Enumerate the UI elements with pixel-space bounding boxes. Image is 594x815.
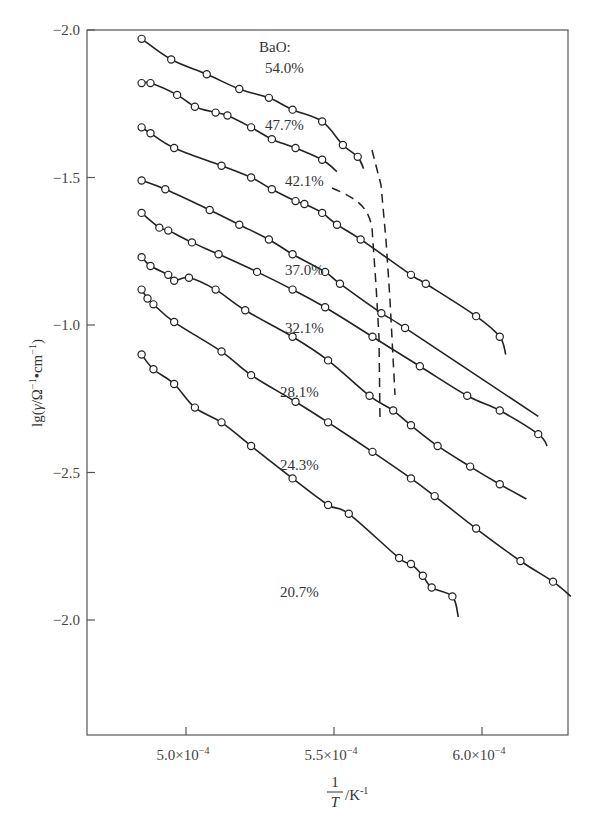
- data-point: [289, 475, 296, 482]
- data-point: [171, 380, 178, 387]
- data-point: [289, 251, 296, 258]
- y-tick-label: −1.0: [53, 317, 80, 333]
- series-curve: [142, 82, 337, 171]
- svg-text:1: 1: [331, 774, 339, 790]
- data-point: [265, 94, 272, 101]
- legend-title: BaO:: [259, 39, 291, 55]
- data-point: [535, 431, 542, 438]
- data-point: [218, 162, 225, 169]
- data-point: [416, 363, 423, 370]
- data-point: [345, 510, 352, 517]
- data-point: [165, 227, 172, 234]
- data-point: [215, 251, 222, 258]
- data-point: [242, 307, 249, 314]
- data-point: [449, 593, 456, 600]
- data-point: [369, 448, 376, 455]
- data-point: [165, 271, 172, 278]
- plot-frame: [87, 30, 568, 735]
- data-point: [218, 419, 225, 426]
- data-point: [147, 262, 154, 269]
- data-point: [191, 103, 198, 110]
- series-label: 32.1%: [285, 320, 324, 336]
- data-point: [185, 274, 192, 281]
- data-point: [289, 286, 296, 293]
- series-curve: [142, 290, 571, 597]
- data-point: [336, 280, 343, 287]
- x-axis-title: 1 T /K-1: [327, 774, 368, 810]
- data-point: [419, 572, 426, 579]
- data-point: [434, 442, 441, 449]
- data-point: [369, 333, 376, 340]
- data-point: [212, 109, 219, 116]
- data-point: [319, 118, 326, 125]
- data-point: [206, 206, 213, 213]
- data-point: [517, 557, 524, 564]
- data-point: [248, 372, 255, 379]
- x-tick-label: 5.5×10−4: [305, 745, 358, 763]
- data-point: [428, 584, 435, 591]
- data-point: [236, 221, 243, 228]
- data-point: [138, 209, 145, 216]
- svg-text:lg(γ/Ω−1•cm−1): lg(γ/Ω−1•cm−1): [27, 339, 46, 427]
- data-point: [150, 366, 157, 373]
- series-label: 54.0%: [265, 60, 304, 76]
- x-tick-label: 5.0×10−4: [157, 745, 210, 763]
- data-point: [218, 348, 225, 355]
- y-axis-title: lg(γ/Ω−1•cm−1): [27, 339, 46, 427]
- data-point: [319, 209, 326, 216]
- data-point: [191, 404, 198, 411]
- data-point: [138, 351, 145, 358]
- data-point: [496, 333, 503, 340]
- data-point: [324, 357, 331, 364]
- y-tick-label: −2.0: [53, 22, 80, 38]
- data-point: [268, 186, 275, 193]
- data-point: [319, 156, 326, 163]
- data-point: [248, 124, 255, 131]
- data-point: [431, 493, 438, 500]
- data-point: [496, 481, 503, 488]
- data-point: [324, 419, 331, 426]
- series-label: 20.7%: [280, 584, 319, 600]
- data-point: [396, 554, 403, 561]
- x-axis-ticks: 5.0×10−45.5×10−46.0×10−4: [157, 727, 506, 763]
- data-point: [171, 144, 178, 151]
- data-point: [357, 236, 364, 243]
- series-label: 28.1%: [280, 384, 319, 400]
- data-point: [150, 301, 157, 308]
- data-point: [401, 324, 408, 331]
- data-point: [354, 153, 361, 160]
- data-point: [171, 277, 178, 284]
- data-points: [138, 35, 557, 600]
- data-point: [292, 144, 299, 151]
- data-point: [366, 392, 373, 399]
- data-point: [144, 295, 151, 302]
- data-point: [138, 35, 145, 42]
- data-point: [292, 198, 299, 205]
- data-point: [224, 112, 231, 119]
- data-point: [422, 280, 429, 287]
- data-point: [138, 286, 145, 293]
- data-point: [253, 268, 260, 275]
- data-point: [472, 525, 479, 532]
- data-point: [407, 475, 414, 482]
- data-point: [147, 130, 154, 137]
- data-point: [339, 141, 346, 148]
- data-point: [390, 407, 397, 414]
- data-point: [138, 124, 145, 131]
- data-point: [203, 71, 210, 78]
- data-point: [407, 422, 414, 429]
- svg-text:/K-1: /K-1: [345, 785, 368, 803]
- curves: [142, 39, 571, 617]
- data-point: [549, 578, 556, 585]
- data-point: [248, 174, 255, 181]
- data-point: [378, 310, 385, 317]
- y-tick-label: −1.5: [53, 170, 80, 186]
- series-label: 42.1%: [285, 173, 324, 189]
- series-label: 37.0%: [285, 262, 324, 278]
- data-point: [168, 56, 175, 63]
- y-tick-label: −2.0: [53, 612, 80, 628]
- x-tick-label: 6.0×10−4: [453, 745, 506, 763]
- series-label: 24.3%: [280, 457, 319, 473]
- data-point: [407, 271, 414, 278]
- data-point: [188, 239, 195, 246]
